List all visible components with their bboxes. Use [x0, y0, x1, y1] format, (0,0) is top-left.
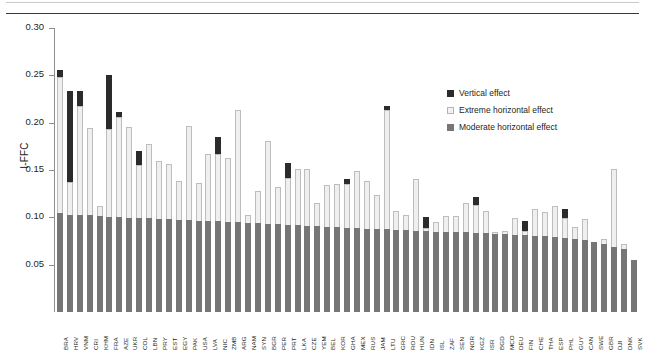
x-tick-label: GBR	[607, 336, 614, 350]
bar-segment-moderate	[126, 218, 132, 312]
bar-segment-extreme	[354, 171, 360, 228]
bar-segment-extreme	[285, 178, 291, 225]
x-tick-label: VNM	[82, 336, 89, 350]
x-tick-label: BRA	[62, 337, 69, 350]
x-tick-label: FRA	[112, 337, 119, 350]
y-tick-mark	[49, 75, 54, 76]
bar-segment-extreme	[374, 195, 380, 229]
bar-vnm	[77, 91, 83, 312]
x-tick-label: NAM	[250, 336, 257, 350]
x-tick-label: UKR	[131, 337, 138, 350]
bar-segment-moderate	[453, 232, 459, 312]
bar-segment-vertical	[473, 197, 479, 205]
bar-segment-extreme	[304, 169, 310, 226]
bar-bgr	[265, 141, 271, 312]
bar-segment-vertical	[77, 91, 83, 105]
x-tick-label: FIN	[527, 340, 534, 350]
x-tick-label: SVK	[636, 337, 643, 350]
legend-item-vertical-effect: Vertical effect	[447, 86, 557, 100]
bar-segment-moderate	[532, 236, 538, 312]
bar-segment-moderate	[225, 222, 231, 312]
bar-segment-extreme	[275, 187, 281, 224]
x-tick-label: KOR	[339, 336, 346, 350]
bar-segment-moderate	[295, 225, 301, 312]
bar-segment-extreme	[57, 77, 63, 212]
bar-segment-extreme	[403, 215, 409, 229]
bar-pry	[156, 161, 162, 312]
bar-segment-extreme	[295, 169, 301, 225]
bar-segment-moderate	[186, 220, 192, 312]
bar-segment-vertical	[522, 221, 528, 230]
bar-est	[166, 164, 172, 312]
bar-dnk	[621, 244, 627, 312]
bar-isr	[483, 211, 489, 312]
x-tick-label: IDN	[428, 339, 435, 350]
bar-segment-moderate	[492, 234, 498, 312]
x-tick-label: GRC	[399, 336, 406, 350]
caption-rule	[6, 13, 639, 14]
x-tick-label: CHE	[537, 337, 544, 350]
x-tick-label: BEL	[329, 338, 336, 350]
x-tick-label: JAM	[379, 337, 386, 350]
bar-segment-moderate	[403, 230, 409, 312]
bar-prt	[285, 163, 291, 312]
x-tick-label: DNK	[626, 337, 633, 350]
bar-deu	[512, 218, 518, 312]
bar-segment-extreme	[235, 110, 241, 222]
x-tick-label: GHA	[349, 336, 356, 350]
bar-segment-moderate	[621, 249, 627, 312]
bar-segment-extreme	[77, 106, 83, 216]
y-tick-label: 0.10	[14, 210, 44, 221]
bar-jam	[374, 195, 380, 312]
bar-segment-moderate	[205, 221, 211, 312]
y-tick-label: 0.30	[14, 21, 44, 32]
y-axis-label: I-FFC	[19, 126, 30, 186]
bar-segment-extreme	[552, 206, 558, 237]
bar-segment-extreme	[492, 232, 498, 234]
x-tick-label: THA	[547, 337, 554, 350]
x-tick-label: PRY	[161, 337, 168, 350]
bar-segment-moderate	[265, 224, 271, 312]
bar-fin	[522, 221, 528, 312]
bar-nam	[245, 215, 251, 312]
bar-segment-extreme	[364, 181, 370, 228]
bar-segment-extreme	[483, 211, 489, 234]
bar-segment-extreme	[572, 227, 578, 239]
bar-segment-extreme	[582, 219, 588, 240]
bar-segment-moderate	[552, 237, 558, 312]
bar-segment-extreme	[601, 239, 607, 244]
bar-fra	[106, 75, 112, 312]
bar-segment-moderate	[611, 247, 617, 312]
bar-segment-extreme	[186, 126, 192, 221]
bar-segment-vertical	[285, 163, 291, 177]
bar-segment-vertical	[136, 151, 142, 165]
bar-ltu	[384, 106, 390, 312]
y-tick-label: 0.05	[14, 258, 44, 269]
x-tick-label: CAN	[587, 337, 594, 350]
bar-kgz	[473, 197, 479, 312]
bar-segment-extreme	[215, 154, 221, 221]
bar-segment-extreme	[97, 206, 103, 216]
bar-segment-extreme	[265, 141, 271, 224]
x-tick-label: YEM	[320, 336, 327, 350]
bar-segment-moderate	[572, 239, 578, 312]
bar-segment-moderate	[324, 227, 330, 312]
bar-segment-extreme	[205, 154, 211, 221]
bar-segment-extreme	[423, 228, 429, 231]
bar-segment-moderate	[512, 235, 518, 312]
bar-kor	[334, 184, 340, 312]
bar-sen	[453, 216, 459, 312]
bar-gbr	[601, 239, 607, 312]
bar-segment-moderate	[146, 218, 152, 312]
bar-segment-moderate	[176, 220, 182, 312]
bar-segment-extreme	[384, 110, 390, 228]
bar-swe	[591, 242, 597, 312]
x-axis-labels: BRAHRVVNMCRIKHMFRAAZEUKRCOLLBNPRYESTEGYP…	[55, 314, 639, 353]
bar-segment-vertical	[67, 91, 73, 182]
x-tick-label: USA	[201, 337, 208, 350]
bar-aze	[116, 112, 122, 312]
bar-segment-extreme	[344, 184, 350, 228]
bar-segment-moderate	[97, 216, 103, 312]
bar-segment-extreme	[245, 215, 251, 223]
bar-segment-extreme	[393, 211, 399, 230]
